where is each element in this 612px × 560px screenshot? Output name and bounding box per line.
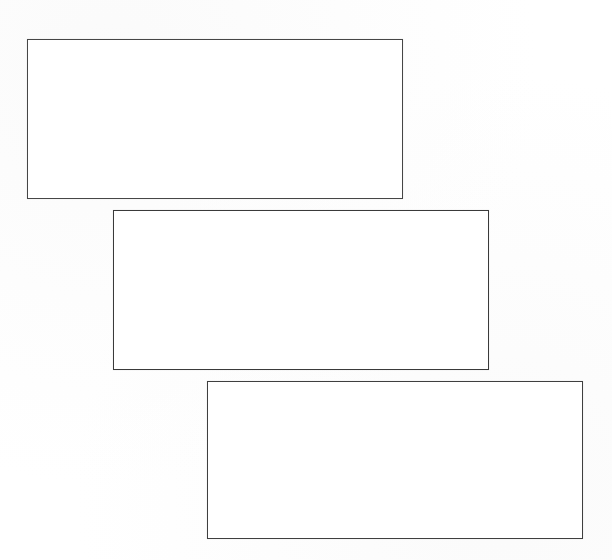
rectangle-bottom-right[interactable]: [207, 381, 583, 539]
rectangle-middle[interactable]: [113, 210, 489, 370]
rectangle-top-left[interactable]: [27, 39, 403, 199]
figure-canvas: [0, 0, 612, 560]
